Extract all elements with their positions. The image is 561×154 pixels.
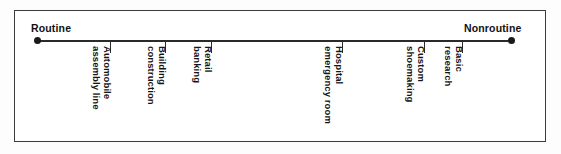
- tick-label-line1: Building: [157, 46, 168, 85]
- tick-label-line1: Custom: [416, 46, 427, 82]
- tick-label-line1: Retail: [203, 46, 214, 72]
- tick-label-line2: construction: [146, 46, 157, 105]
- tick-label-hospital-emergency-room: Hospitalemergency room: [323, 46, 344, 124]
- tick-label-line2: shoemaking: [405, 46, 416, 102]
- tick-label-line2: assembly line: [91, 46, 102, 110]
- tick-label-automobile-assembly-line: Automobileassembly line: [91, 46, 112, 110]
- continuum-figure: Routine Nonroutine Automobileassembly li…: [0, 0, 561, 154]
- tick-label-custom-shoemaking: Customshoemaking: [405, 46, 426, 102]
- tick-label-line2: emergency room: [323, 46, 334, 124]
- routine-endpoint-label: Routine: [31, 22, 71, 34]
- nonroutine-endpoint-dot: [508, 37, 515, 44]
- tick-label-retail-banking: Retailbanking: [192, 46, 213, 83]
- tick-label-line1: Automobile: [102, 46, 113, 99]
- routine-endpoint-dot: [34, 37, 41, 44]
- tick-label-line1: Basic: [454, 46, 465, 72]
- tick-label-building-construction: Buildingconstruction: [146, 46, 167, 105]
- continuum-axis-line: [37, 40, 513, 42]
- tick-label-line2: research: [443, 46, 454, 86]
- tick-label-basic-research: Basicresearch: [443, 46, 464, 86]
- tick-label-line1: Hospital: [334, 46, 345, 84]
- nonroutine-endpoint-label: Nonroutine: [464, 22, 522, 34]
- tick-label-line2: banking: [192, 46, 203, 83]
